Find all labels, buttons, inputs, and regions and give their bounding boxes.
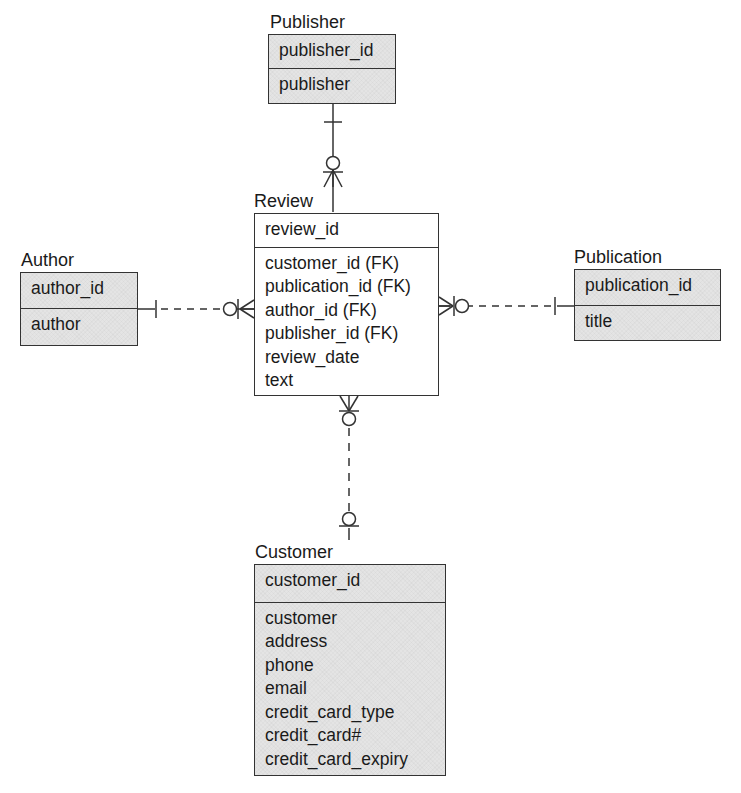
attribute-field: text	[265, 369, 428, 393]
entity-review[interactable]: review_id customer_id (FK) publication_i…	[254, 213, 439, 396]
attribute-list: customer_id (FK) publication_id (FK) aut…	[255, 248, 438, 397]
attribute-field: customer	[265, 607, 435, 631]
entity-publication[interactable]: publication_id title	[574, 269, 721, 341]
relationship-publisher-review	[323, 104, 343, 212]
primary-key-field: author_id	[21, 273, 137, 309]
attribute-field: author	[31, 313, 127, 337]
attribute-list: publisher	[269, 69, 395, 101]
attribute-field: phone	[265, 654, 435, 678]
entity-title-publisher: Publisher	[270, 12, 345, 32]
entity-author[interactable]: author_id author	[20, 272, 138, 346]
attribute-field: publisher	[279, 73, 385, 97]
foreign-key-field: author_id (FK)	[265, 299, 428, 323]
entity-customer[interactable]: customer_id customer address phone email…	[254, 564, 446, 776]
primary-key-field: review_id	[255, 214, 438, 248]
foreign-key-field: customer_id (FK)	[265, 252, 428, 276]
relationship-publication-review	[439, 296, 574, 316]
attribute-field: credit_card_expiry	[265, 748, 435, 772]
attribute-list: author	[21, 309, 137, 341]
foreign-key-field: publisher_id (FK)	[265, 322, 428, 346]
primary-key-field: publisher_id	[269, 35, 395, 69]
attribute-list: title	[575, 306, 720, 338]
attribute-field: title	[585, 310, 710, 334]
entity-publisher[interactable]: publisher_id publisher	[268, 34, 396, 104]
attribute-field: email	[265, 677, 435, 701]
entity-title-author: Author	[21, 250, 74, 270]
attribute-field: credit_card#	[265, 724, 435, 748]
attribute-field: review_date	[265, 346, 428, 370]
attribute-field: credit_card_type	[265, 701, 435, 725]
foreign-key-field: publication_id (FK)	[265, 275, 428, 299]
entity-title-customer: Customer	[255, 542, 333, 562]
relationship-author-review	[138, 299, 254, 319]
primary-key-field: publication_id	[575, 270, 720, 306]
entity-title-publication: Publication	[574, 247, 662, 267]
entity-title-review: Review	[254, 191, 313, 211]
primary-key-field: customer_id	[255, 565, 445, 603]
attribute-field: address	[265, 630, 435, 654]
attribute-list: customer address phone email credit_card…	[255, 603, 445, 776]
relationship-customer-review	[339, 396, 359, 540]
